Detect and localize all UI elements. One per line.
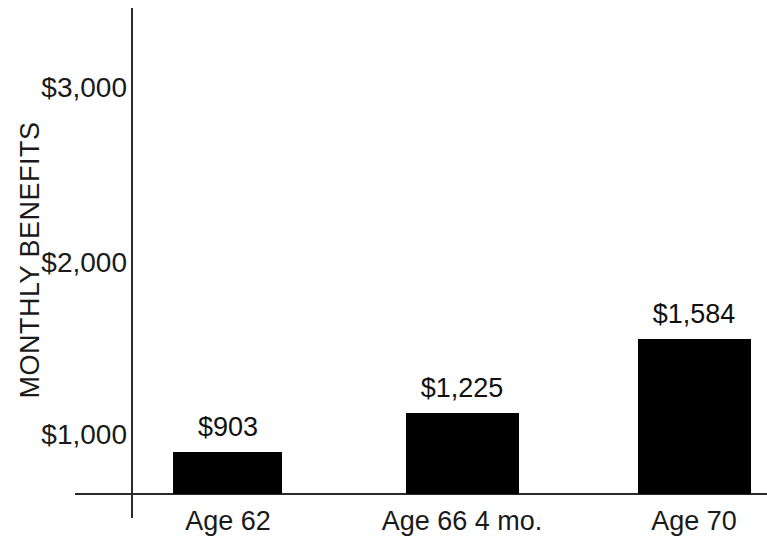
y-tick-label-3000: $3,000 — [7, 72, 127, 104]
bar-value-label-age-70: $1,584 — [653, 299, 736, 330]
bar-age-70 — [638, 339, 751, 494]
bar-value-label-age-66-4-mo: $1,225 — [421, 373, 504, 404]
bar-age-66-4-mo — [406, 413, 519, 494]
x-tick-label-age-66-4-mo: Age 66 4 mo. — [382, 506, 543, 537]
bar-value-label-age-62: $903 — [198, 412, 258, 443]
bar-chart: MONTHLY BENEFITS $3,000 $2,000 $1,000 $9… — [0, 0, 767, 544]
bar-age-62 — [173, 452, 282, 494]
x-tick-label-age-62: Age 62 — [185, 506, 271, 537]
y-tick-label-2000: $2,000 — [7, 247, 127, 279]
y-tick-label-1000: $1,000 — [7, 419, 127, 451]
y-axis-line — [131, 8, 133, 518]
y-axis-tick-labels: $3,000 $2,000 $1,000 — [0, 0, 127, 544]
x-tick-label-age-70: Age 70 — [651, 506, 737, 537]
